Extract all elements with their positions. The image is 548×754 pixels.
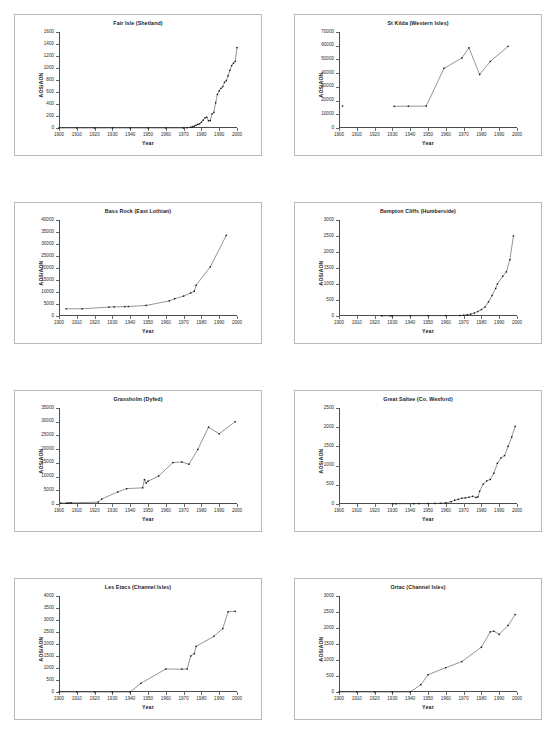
data-point-marker — [495, 288, 496, 289]
data-point-marker — [195, 125, 196, 126]
data-point-marker — [356, 691, 357, 692]
data-point-marker — [215, 102, 216, 103]
data-point-marker — [130, 691, 131, 692]
data-point-marker — [211, 113, 212, 114]
x-tick-label: 1920 — [369, 509, 379, 514]
data-point-marker — [392, 315, 393, 316]
chart-title: St Kilda (Western Isles) — [295, 20, 541, 27]
y-tick-label: 800 — [46, 78, 54, 83]
x-tick-label: 1900 — [334, 133, 344, 138]
data-point-marker — [210, 120, 211, 121]
chart-cell: Fair Isle (Shetland)AOS/AONYear020040060… — [8, 8, 276, 196]
data-series — [59, 596, 237, 692]
chart-cell: Bass Rock (East Lothian)AOS/AONYear05000… — [8, 196, 276, 384]
y-axis-title: AOS/AON — [38, 73, 44, 98]
x-tick-label: 1910 — [72, 321, 82, 326]
y-tick-label: 40000 — [321, 71, 334, 76]
x-tick-mark — [446, 504, 447, 507]
data-point-marker — [427, 674, 428, 675]
x-axis-title: Year — [339, 516, 517, 522]
data-point-marker — [450, 501, 451, 502]
data-point-marker — [490, 61, 491, 62]
x-tick-label: 1970 — [178, 697, 188, 702]
x-tick-label: 1980 — [476, 133, 486, 138]
data-point-marker — [381, 315, 382, 316]
x-tick-label: 1960 — [441, 697, 451, 702]
x-tick-label: 1940 — [125, 321, 135, 326]
data-point-marker — [465, 497, 466, 498]
series-polyline — [394, 46, 508, 106]
x-tick-label: 1940 — [125, 509, 135, 514]
x-tick-label: 1990 — [214, 509, 224, 514]
data-point-marker — [461, 498, 462, 499]
x-tick-mark — [339, 128, 340, 131]
y-tick-label: 10000 — [321, 112, 334, 117]
chart-panel: Great Saltee (Co. Wexford)AOS/AONYear050… — [294, 390, 542, 532]
data-point-marker — [117, 491, 118, 492]
y-tick-label: 15000 — [41, 278, 54, 283]
data-point-marker — [507, 625, 508, 626]
data-point-marker — [461, 57, 462, 58]
x-tick-label: 1960 — [161, 697, 171, 702]
data-point-marker — [65, 502, 66, 503]
data-point-marker — [515, 426, 516, 427]
data-point-marker — [190, 655, 191, 656]
x-tick-label: 1930 — [387, 321, 397, 326]
data-point-marker — [217, 94, 218, 95]
x-tick-mark — [201, 128, 202, 131]
x-tick-label: 1970 — [178, 321, 188, 326]
x-tick-label: 1970 — [458, 321, 468, 326]
y-tick-label: 60000 — [321, 43, 334, 48]
x-tick-label: 2000 — [512, 697, 522, 702]
y-tick-label: 0 — [331, 690, 334, 695]
x-tick-mark — [481, 316, 482, 319]
data-point-marker — [147, 481, 148, 482]
plot-area: 0500100015002000250030003500400019001910… — [59, 596, 237, 692]
data-point-marker — [208, 427, 209, 428]
x-tick-mark — [219, 128, 220, 131]
x-tick-mark — [517, 128, 518, 131]
y-tick-label: 40000 — [41, 218, 54, 223]
data-point-marker — [474, 312, 475, 313]
data-point-marker — [479, 74, 480, 75]
x-tick-mark — [59, 316, 60, 319]
data-point-marker — [181, 461, 182, 462]
y-tick-label: 0 — [331, 502, 334, 507]
y-tick-label: 2000 — [324, 626, 334, 631]
data-point-marker — [491, 295, 492, 296]
x-tick-label: 1970 — [458, 133, 468, 138]
x-tick-label: 1950 — [143, 321, 153, 326]
x-tick-mark — [481, 504, 482, 507]
plot-area: 0200400600800100012001400160019001910192… — [59, 32, 237, 128]
chart-cell: Ortac (Channel Isles)AOS/AONYear05001000… — [288, 572, 548, 754]
y-tick-label: 20000 — [321, 98, 334, 103]
data-point-marker — [219, 433, 220, 434]
plot-area: 0500100015002000250030001900191019201930… — [339, 596, 517, 692]
x-tick-label: 1980 — [196, 697, 206, 702]
y-tick-label: 10000 — [41, 474, 54, 479]
x-tick-mark — [375, 504, 376, 507]
data-point-marker — [222, 86, 223, 87]
data-point-marker — [440, 503, 441, 504]
data-point-marker — [183, 295, 184, 296]
x-tick-label: 1980 — [196, 133, 206, 138]
y-tick-label: 0 — [51, 126, 54, 131]
x-tick-mark — [392, 128, 393, 131]
y-tick-label: 1000 — [324, 463, 334, 468]
y-tick-label: 1000 — [324, 658, 334, 663]
data-point-marker — [427, 503, 428, 504]
x-tick-mark — [112, 316, 113, 319]
y-tick-label: 1000 — [324, 282, 334, 287]
data-point-marker — [69, 502, 70, 503]
data-point-marker — [197, 124, 198, 125]
data-point-marker — [418, 503, 419, 504]
data-point-marker — [468, 47, 469, 48]
data-point-marker — [140, 683, 141, 684]
x-tick-label: 1920 — [89, 321, 99, 326]
data-point-marker — [112, 127, 113, 128]
chart-title: Bass Rock (East Lothian) — [15, 208, 261, 215]
chart-sheet: Fair Isle (Shetland)AOS/AONYear020040060… — [0, 0, 548, 754]
data-point-marker — [390, 315, 391, 316]
x-tick-label: 1900 — [334, 509, 344, 514]
data-point-marker — [186, 127, 187, 128]
